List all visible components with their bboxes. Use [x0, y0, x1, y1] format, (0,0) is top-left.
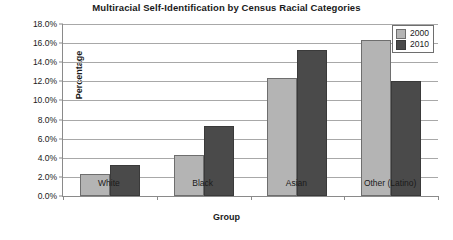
x-tick-label: White — [98, 178, 120, 188]
chart-title: Multiracial Self-Identification by Censu… — [0, 2, 453, 13]
x-tick-mark — [438, 196, 439, 200]
bar — [174, 155, 204, 196]
bar — [361, 40, 391, 196]
y-tick-mark — [59, 100, 63, 101]
y-tick-label: 6.0% — [38, 134, 57, 144]
legend-item: 2010 — [396, 39, 429, 50]
y-tick-label: 8.0% — [38, 115, 57, 125]
x-tick-mark — [63, 196, 64, 200]
y-tick-mark — [59, 62, 63, 63]
x-tick-mark — [251, 196, 252, 200]
legend-item: 2000 — [396, 28, 429, 39]
plot-area: Percentage 0.0%2.0%4.0%6.0%8.0%10.0%12.0… — [62, 24, 438, 197]
legend-swatch — [396, 29, 406, 39]
bar — [297, 50, 327, 196]
y-tick-label: 14.0% — [33, 57, 57, 67]
bar-group — [174, 24, 234, 196]
y-tick-label: 18.0% — [33, 19, 57, 29]
y-tick-mark — [59, 119, 63, 120]
y-tick-label: 12.0% — [33, 76, 57, 86]
legend-label: 2000 — [410, 28, 429, 39]
x-tick-mark — [157, 196, 158, 200]
bar-chart: Multiracial Self-Identification by Censu… — [0, 0, 453, 240]
legend-label: 2010 — [410, 39, 429, 50]
bar-group — [80, 24, 140, 196]
bar-group — [267, 24, 327, 196]
y-tick-mark — [59, 138, 63, 139]
y-tick-mark — [59, 176, 63, 177]
chart-legend: 20002010 — [392, 25, 434, 53]
y-tick-label: 10.0% — [33, 95, 57, 105]
y-tick-mark — [59, 43, 63, 44]
y-tick-mark — [59, 81, 63, 82]
y-tick-mark — [59, 157, 63, 158]
x-axis-label: Group — [0, 212, 453, 222]
x-tick-label: Asian — [286, 178, 307, 188]
y-tick-label: 0.0% — [38, 191, 57, 201]
x-tick-label: Other (Latino) — [364, 178, 416, 188]
y-tick-label: 2.0% — [38, 172, 57, 182]
y-tick-label: 4.0% — [38, 153, 57, 163]
y-tick-label: 16.0% — [33, 38, 57, 48]
y-tick-mark — [59, 24, 63, 25]
legend-swatch — [396, 40, 406, 50]
x-tick-label: Black — [192, 178, 213, 188]
x-tick-mark — [344, 196, 345, 200]
